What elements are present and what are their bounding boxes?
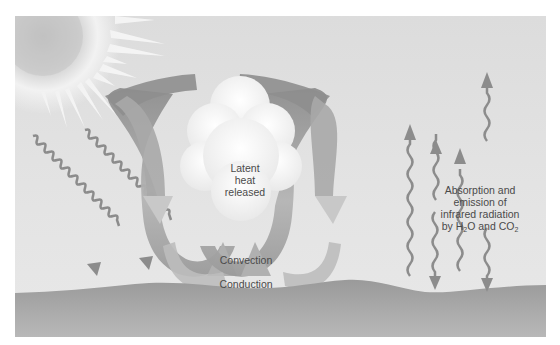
absorption-label: Absorption and emission of infrared radi…: [425, 184, 535, 236]
latent-heat-line1: Latent: [215, 162, 275, 174]
convection-label: Convection: [210, 254, 282, 266]
absorption-line4: by H2O and CO2: [425, 220, 535, 236]
latent-heat-line2: heat: [215, 174, 275, 186]
latent-heat-label: Latent heat released: [215, 162, 275, 198]
text-o-and-co: O and CO: [467, 220, 514, 232]
text-by-h: by H: [442, 220, 464, 232]
subscript-2: 2: [514, 226, 518, 233]
wavy-arrow-vertical-icon: [408, 138, 413, 276]
absorption-line3: infrared radiation: [425, 208, 535, 220]
absorption-line2: emission of: [425, 196, 535, 208]
conduction-label: Conduction: [210, 278, 282, 290]
diagram-frame: Latent heat released Convection Conducti…: [15, 16, 546, 337]
latent-heat-line3: released: [215, 186, 275, 198]
absorption-line1: Absorption and: [425, 184, 535, 196]
